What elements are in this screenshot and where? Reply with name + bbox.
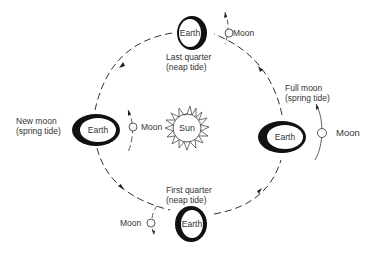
svg-text:Earth: Earth	[182, 219, 203, 229]
sun-icon: Sun	[165, 106, 209, 150]
moon-label-first-quarter: Moon	[120, 218, 141, 228]
earth-full-moon: Earth	[258, 121, 306, 153]
tide-label-full-moon: (spring tide)	[285, 93, 330, 103]
phase-label-new-moon: New moon	[16, 116, 57, 126]
moon-label-full-moon: Moon	[336, 128, 360, 138]
arrow-icon	[118, 184, 124, 190]
earth-last-quarter: Earth	[177, 16, 207, 50]
moon-arrow-icon	[152, 230, 155, 235]
phase-label-full-moon: Full moon	[285, 83, 322, 93]
arrow-icon	[119, 62, 125, 68]
svg-text:Earth: Earth	[180, 28, 201, 38]
moon-label-new-moon: Moon	[141, 122, 162, 132]
tide-label-new-moon: (spring tide)	[16, 126, 61, 136]
phase-label-last-quarter: Last quarter	[166, 52, 211, 62]
moon-label-last-quarter: Moon	[233, 28, 254, 38]
tide-label-first-quarter: (neap tide)	[166, 195, 207, 205]
svg-text:Earth: Earth	[88, 125, 109, 135]
earth-new-moon: Earth	[72, 114, 120, 146]
svg-text:Earth: Earth	[275, 132, 296, 142]
sun-label: Sun	[179, 123, 195, 133]
phase-label-first-quarter: First quarter	[166, 185, 212, 195]
earth-first-quarter: Earth	[175, 206, 207, 242]
arrow-icon	[257, 188, 262, 194]
tide-label-last-quarter: (neap tide)	[166, 62, 207, 72]
